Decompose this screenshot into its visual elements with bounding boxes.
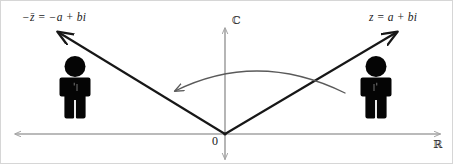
person-left-icon [60, 56, 91, 119]
label-z: z = a + bi [369, 12, 417, 24]
real-axis-label: ℝ [433, 139, 442, 150]
complex-plane-figure: −z̄ = −a + bi z = a + bi ℂ ℝ 0 [0, 0, 453, 164]
person-right-icon [361, 56, 392, 119]
label-neg-conjugate-z: −z̄ = −a + bi [22, 12, 86, 24]
rotation-arc [175, 71, 345, 93]
diagram-canvas [1, 1, 453, 164]
origin-label: 0 [212, 135, 218, 147]
imaginary-axis-label: ℂ [232, 15, 241, 26]
origin-point [223, 132, 226, 135]
